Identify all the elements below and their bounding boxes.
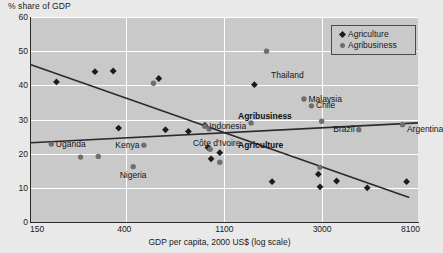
y-tick-label: 10 bbox=[4, 184, 28, 193]
gridline-vertical bbox=[126, 17, 127, 222]
y-tick-label: 20 bbox=[4, 150, 28, 159]
country-label-c-te-d-ivoire: Côte d'Ivoire bbox=[193, 139, 240, 148]
y-tick-label: 30 bbox=[4, 116, 28, 125]
circle-marker-icon bbox=[337, 43, 348, 48]
gridline-vertical bbox=[224, 17, 225, 222]
country-label-chile: Chile bbox=[316, 101, 335, 110]
x-tick-label: 1100 bbox=[215, 225, 233, 234]
y-tick-labels: 0102030405060 bbox=[0, 0, 28, 253]
x-tick-label: 3000 bbox=[313, 225, 332, 234]
country-label-nigeria: Nigeria bbox=[120, 171, 147, 180]
legend-label-agriculture: Agriculture bbox=[348, 30, 389, 39]
x-axis-line bbox=[30, 222, 419, 223]
y-tick-label: 50 bbox=[4, 47, 28, 56]
diamond-marker-icon bbox=[337, 32, 348, 37]
y-tick-label: 0 bbox=[4, 218, 28, 227]
country-label-indonesia: Indonesia bbox=[209, 122, 246, 131]
trend-label-agribusiness: Agribusiness bbox=[238, 112, 292, 121]
x-tick-label: 8100 bbox=[401, 225, 420, 234]
gridline-vertical bbox=[322, 17, 323, 222]
country-label-thailand: Thailand bbox=[271, 71, 304, 80]
x-tick-label: 150 bbox=[30, 225, 44, 234]
country-label-argentina: Argentina bbox=[407, 125, 443, 134]
x-tick-label: 400 bbox=[117, 225, 131, 234]
legend-item-agriculture: Agriculture bbox=[337, 29, 411, 40]
trend-label-agriculture: Agriculture bbox=[238, 141, 283, 150]
country-label-kenya: Kenya bbox=[115, 141, 139, 150]
country-label-uganda: Uganda bbox=[56, 140, 86, 149]
legend-label-agribusiness: Agribusiness bbox=[348, 41, 397, 50]
y-tick-label: 40 bbox=[4, 81, 28, 90]
x-axis-title: GDP per capita, 2000 US$ (log scale) bbox=[0, 237, 439, 247]
chart-legend: Agriculture Agribusiness bbox=[331, 25, 416, 55]
legend-item-agribusiness: Agribusiness bbox=[337, 40, 411, 51]
y-axis-line bbox=[30, 17, 31, 223]
country-label-brazil: Brazil bbox=[333, 125, 354, 134]
y-tick-label: 60 bbox=[4, 13, 28, 22]
